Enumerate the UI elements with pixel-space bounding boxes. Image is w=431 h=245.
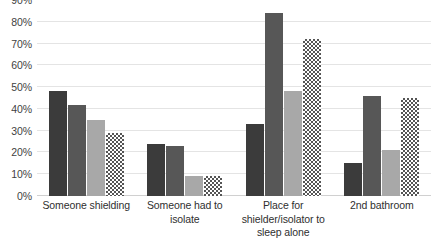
y-tick-label: 0% [17,190,32,202]
bar-group [136,0,235,196]
y-tick-label: 90% [11,0,32,6]
bar[interactable] [204,176,222,196]
bar[interactable] [106,133,124,196]
bar[interactable] [284,91,302,196]
y-tick-label: 80% [11,16,32,28]
bar[interactable] [49,91,67,196]
bar-group [234,0,333,196]
bar[interactable] [185,176,203,196]
bar-group [333,0,431,196]
plot-area [37,0,431,196]
x-tick-label: Place for shielder/isolator to sleep alo… [234,199,333,240]
bar[interactable] [382,150,400,196]
y-tick-label: 40% [11,103,32,115]
x-axis: Someone shieldingSomeone had to isolateP… [37,199,431,240]
bar[interactable] [246,124,264,196]
bar-chart: 0%10%20%30%40%50%60%70%80%90% Someone sh… [0,0,431,245]
y-tick-label: 20% [11,146,32,158]
bars-layer [37,0,431,196]
bar[interactable] [87,120,105,196]
y-axis: 0%10%20%30%40%50%60%70%80%90% [0,0,36,196]
x-tick-label: Someone had to isolate [136,199,235,240]
x-tick-label: 2nd bathroom [333,199,431,240]
bar[interactable] [401,98,419,196]
bar[interactable] [68,105,86,196]
y-tick-label: 60% [11,59,32,71]
bar-group [37,0,136,196]
y-tick-label: 70% [11,38,32,50]
y-tick-label: 30% [11,125,32,137]
bar[interactable] [147,144,165,196]
y-tick-label: 50% [11,81,32,93]
bar[interactable] [363,96,381,196]
bar[interactable] [166,146,184,196]
x-tick-label: Someone shielding [37,199,136,240]
bar[interactable] [344,163,362,196]
bar[interactable] [265,13,283,196]
bar[interactable] [303,39,321,196]
y-tick-label: 10% [11,168,32,180]
